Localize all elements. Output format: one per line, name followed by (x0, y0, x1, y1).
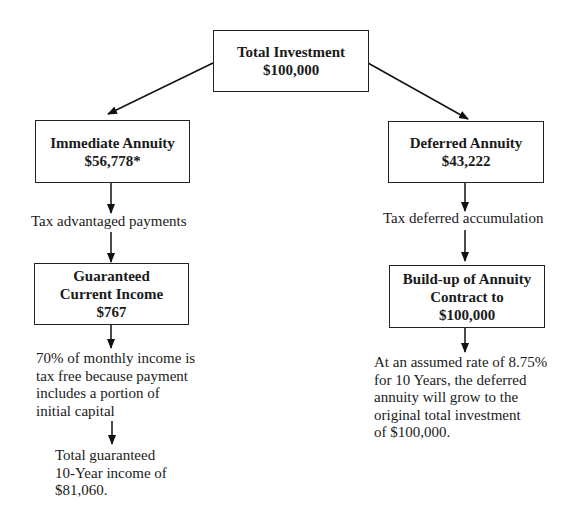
total-investment-box: Total Investment $100,000 (213, 30, 369, 92)
deferred-annuity-amount: $43,222 (442, 152, 491, 170)
left-note-line: tax free because payment (36, 368, 195, 386)
immediate-annuity-amount: $56,778* (84, 152, 140, 170)
right-note-line: At an assumed rate of 8.75% (374, 354, 547, 372)
total-investment-title: Total Investment (237, 43, 345, 61)
total-investment-amount: $100,000 (263, 61, 319, 79)
guaranteed-amount: $767 (97, 303, 127, 321)
left-note-line: includes a portion of (36, 385, 195, 403)
left-total-note: Total guaranteed 10-Year income of $81,0… (55, 447, 167, 500)
buildup-amount: $100,000 (439, 306, 495, 324)
deferred-annuity-box: Deferred Annuity $43,222 (388, 121, 544, 183)
guaranteed-line1: Guaranteed (73, 267, 150, 285)
left-note-line: 70% of monthly income is (36, 350, 195, 368)
left-note: 70% of monthly income is tax free becaus… (36, 350, 195, 420)
right-note: At an assumed rate of 8.75% for 10 Years… (374, 354, 547, 442)
guaranteed-line2: Current Income (60, 285, 163, 303)
left-note-line: initial capital (36, 403, 195, 421)
right-note-line: for 10 Years, the deferred (374, 372, 547, 390)
immediate-annuity-title: Immediate Annuity (50, 134, 175, 152)
left-total-line: $81,060. (55, 482, 167, 500)
deferred-annuity-title: Deferred Annuity (410, 134, 523, 152)
buildup-line1: Build-up of Annuity (403, 270, 531, 288)
right-note-line: of $100,000. (374, 424, 547, 442)
left-total-line: 10-Year income of (55, 465, 167, 483)
right-note-line: original total investment (374, 407, 547, 425)
right-note-line: annuity will grow to the (374, 389, 547, 407)
buildup-line2: Contract to (430, 288, 504, 306)
buildup-box: Build-up of Annuity Contract to $100,000 (389, 265, 545, 328)
left-total-line: Total guaranteed (55, 447, 167, 465)
tax-deferred-label: Tax deferred accumulation (383, 209, 544, 227)
guaranteed-income-box: Guaranteed Current Income $767 (34, 263, 189, 325)
tax-advantaged-label: Tax advantaged payments (31, 212, 187, 230)
immediate-annuity-box: Immediate Annuity $56,778* (35, 120, 190, 183)
